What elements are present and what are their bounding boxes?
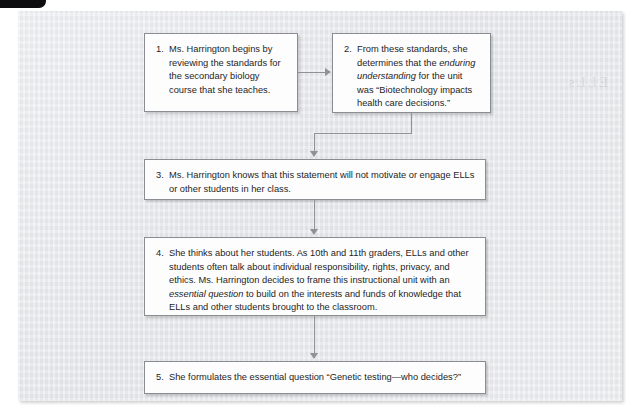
flowchart-step-2: 2. From these standards, she determines … [332,33,491,113]
flowchart-step-5: 5. She formulates the essential question… [144,361,486,394]
step-1-text: Ms. Harrington begins by reviewing the s… [169,43,287,97]
step-4-text: She thinks about her students. As 10th a… [169,247,475,315]
connector-into-step3 [314,133,315,152]
step-5-number: 5. [156,371,169,385]
flowchart-step-3: 3. Ms. Harrington knows that this statem… [144,159,486,200]
connector-step3-to-step4 [314,200,315,230]
connector-step1-to-step2 [298,72,326,73]
arrow-step3-to-step4 [310,229,318,235]
connector-step2-down [411,113,412,134]
step-3-number: 3. [156,169,169,196]
step-2-number: 2. [344,43,357,111]
page-corner-tab [0,0,46,8]
bleed-through-ghost-text: ELLs [518,73,608,159]
arrow-step1-to-step2 [325,68,331,76]
connector-step4-to-step5 [314,316,315,354]
step-4-number: 4. [156,247,169,315]
arrow-step2-to-step3 [310,151,318,157]
flowchart-step-4: 4. She thinks about her students. As 10t… [144,237,486,316]
step-5-text: She formulates the essential question “G… [169,371,475,385]
arrow-step4-to-step5 [310,353,318,359]
flowchart-step-1: 1. Ms. Harrington begins by reviewing th… [144,33,298,112]
connector-step2-across [314,133,412,134]
step-1-number: 1. [156,43,169,97]
flowchart-figure-panel: ELLs 1. Ms. Harrington begins by reviewi… [18,11,622,401]
step-3-text: Ms. Harrington knows that this statement… [169,169,475,196]
step-2-text: From these standards, she determines tha… [357,43,480,111]
